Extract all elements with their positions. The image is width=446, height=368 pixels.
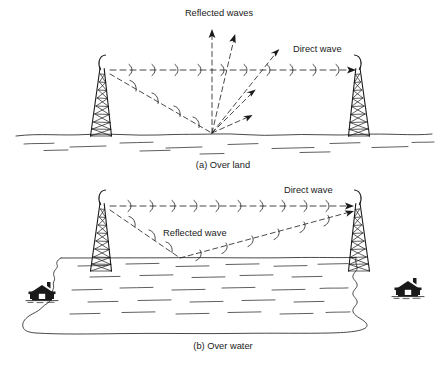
- caption-panel-a: (a) Over land: [196, 160, 250, 170]
- label-direct-wave-land: Direct wave: [293, 44, 342, 54]
- figure-background: [0, 0, 446, 368]
- label-direct-wave-water: Direct wave: [284, 185, 333, 195]
- caption-panel-b: (b) Over water: [193, 341, 252, 351]
- label-reflected-wave-water: Reflected wave: [163, 228, 227, 238]
- propagation-figure: Reflected waves Direct wave (a) Over lan…: [0, 0, 446, 368]
- label-reflected-waves-land: Reflected waves: [185, 8, 254, 18]
